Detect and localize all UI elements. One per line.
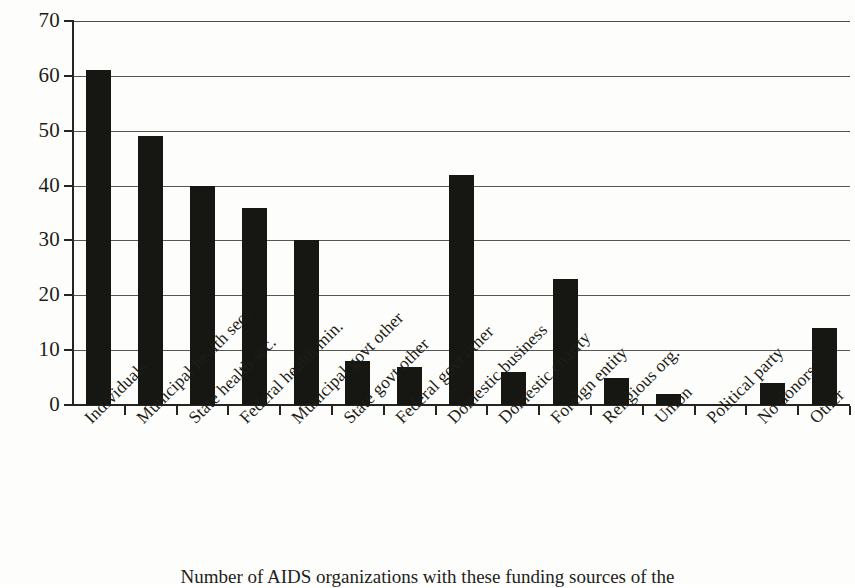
y-tick-label-30: 30	[0, 229, 60, 250]
y-tick-50	[64, 130, 73, 132]
y-tick-label-50: 50	[0, 120, 60, 141]
y-tick-60	[64, 75, 73, 77]
y-tick-40	[64, 185, 73, 187]
y-tick-label-0: 0	[0, 394, 60, 415]
y-tick-0	[64, 404, 73, 406]
figure-caption: Number of AIDS organizations with these …	[0, 566, 855, 588]
bar	[86, 70, 111, 405]
y-tick-10	[64, 349, 73, 351]
y-tick-label-70: 70	[0, 10, 60, 31]
y-tick-label-20: 20	[0, 284, 60, 305]
bar	[294, 240, 319, 405]
y-tick-30	[64, 239, 73, 241]
y-tick-70	[64, 20, 73, 22]
x-axis-labels: IndividualsMunicipal health sec.State he…	[0, 414, 855, 559]
y-tick-20	[64, 294, 73, 296]
y-tick-label-40: 40	[0, 175, 60, 196]
y-tick-label-60: 60	[0, 65, 60, 86]
y-tick-label-10: 10	[0, 339, 60, 360]
